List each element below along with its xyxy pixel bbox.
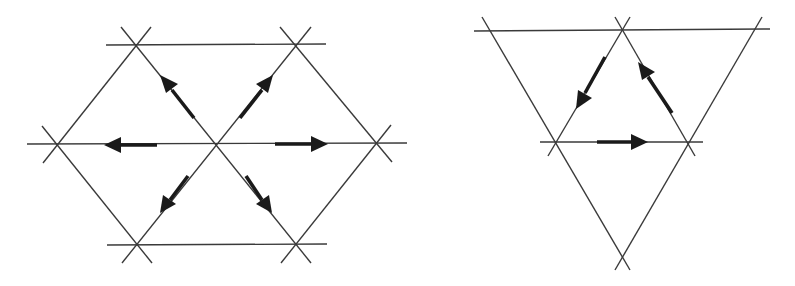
arrow-left-icon <box>104 137 157 153</box>
diagonal-line-b3 <box>280 27 392 162</box>
arrow-down-left-icon <box>160 176 188 213</box>
hexagon-figure <box>27 27 407 263</box>
arrow-down-left-icon <box>576 57 605 109</box>
bottom-horizontal-line <box>107 244 327 245</box>
arrow-right-icon <box>597 134 648 150</box>
diagonal-line-a1 <box>43 27 151 163</box>
diagram-canvas <box>0 0 795 286</box>
arrow-up-left-icon <box>638 62 672 113</box>
triangle-figure <box>474 17 770 270</box>
arrow-up-right-icon <box>240 75 273 118</box>
top-horizontal-line <box>106 44 326 45</box>
arrow-up-left-icon <box>160 75 194 118</box>
arrow-right-icon <box>275 136 328 152</box>
lattice-diagram <box>0 0 795 286</box>
arrow-down-right-icon <box>246 176 272 213</box>
